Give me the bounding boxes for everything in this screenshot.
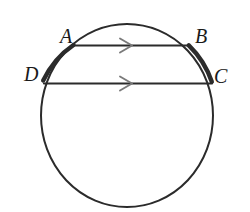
- vertex-label-a: A: [60, 26, 72, 46]
- arc-A-D-highlight: [43, 45, 73, 81]
- geometry-figure: A B C D: [0, 0, 250, 212]
- vertex-label-c: C: [214, 66, 227, 86]
- vertex-label-b: B: [195, 26, 207, 46]
- arc-B-C-highlight: [189, 45, 212, 81]
- circle-diagram-canvas: [0, 0, 250, 212]
- vertex-label-d: D: [24, 64, 38, 84]
